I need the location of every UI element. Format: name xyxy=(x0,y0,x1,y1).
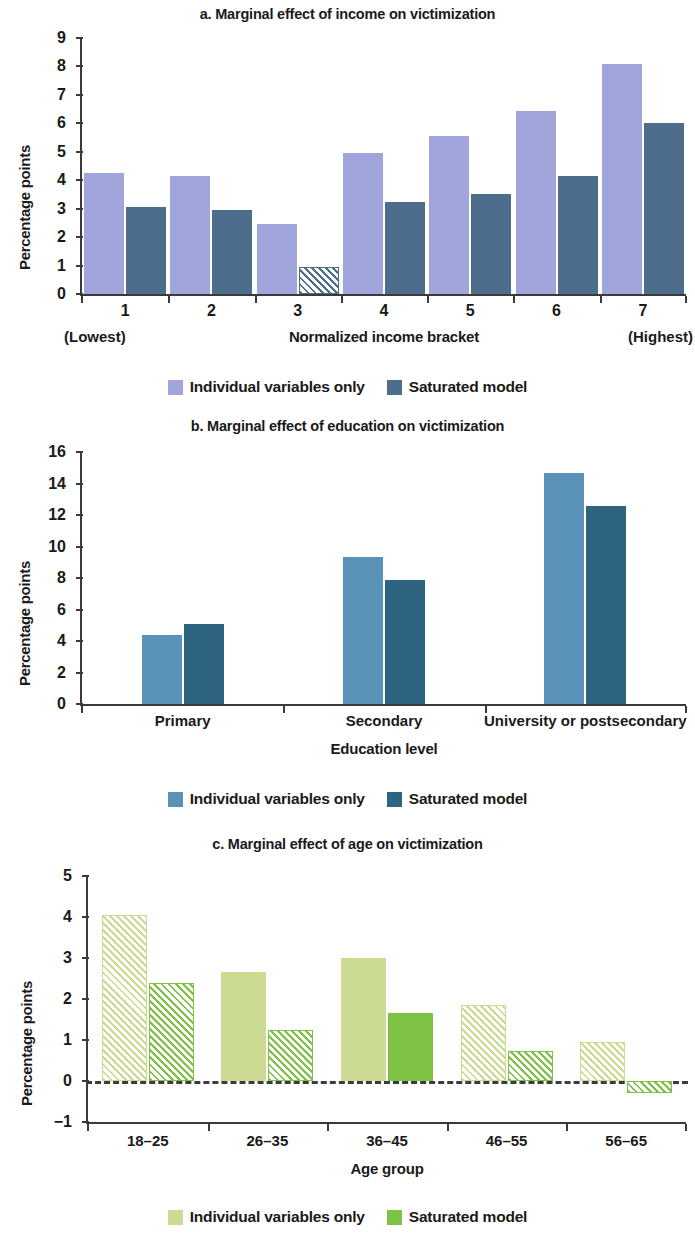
x-axis-tick-mark xyxy=(327,1124,329,1131)
panel-a-title: a. Marginal effect of income on victimiz… xyxy=(0,0,695,26)
x-axis-tick-mark xyxy=(168,296,170,303)
y-axis-tick-label: 4 xyxy=(0,633,74,649)
bar-individual-variables-only xyxy=(170,176,210,294)
x-axis-category-label: 18–25 xyxy=(127,1132,169,1149)
x-axis-category-label: 46–55 xyxy=(486,1132,528,1149)
x-axis-line xyxy=(80,704,686,706)
y-axis-tick-label: 16 xyxy=(0,444,74,460)
x-axis-category-label: Primary xyxy=(155,712,211,729)
x-axis-tick-mark xyxy=(685,706,687,713)
legend-label-individual-variables-only: Individual variables only xyxy=(190,1208,365,1226)
bar-saturated-model xyxy=(388,1013,433,1081)
x-axis-tick-mark xyxy=(81,706,83,713)
y-axis-tick-label: 1 xyxy=(0,1032,80,1048)
legend-swatch-individual-variables-only xyxy=(168,380,183,395)
bar-saturated-model xyxy=(268,1030,313,1081)
panel-a-plot-area: Percentage points01234567891234567Normal… xyxy=(0,26,695,294)
x-axis-tick-mark xyxy=(427,296,429,303)
x-axis-tick-mark xyxy=(447,1124,449,1131)
x-axis-category-label: 6 xyxy=(552,302,561,320)
bar-individual-variables-only xyxy=(341,958,386,1081)
legend-entry-saturated-model: Saturated model xyxy=(387,790,527,808)
x-axis-tick-mark xyxy=(283,706,285,713)
y-axis-tick-label: 12 xyxy=(0,507,74,523)
y-axis-tick-label: 14 xyxy=(0,476,74,492)
bar-saturated-model xyxy=(644,123,684,294)
y-axis-tick-label: 9 xyxy=(0,30,74,46)
x-axis-tick-mark xyxy=(208,1124,210,1131)
x-axis-category-label: 2 xyxy=(207,302,216,320)
y-axis-tick-label: 0 xyxy=(0,696,74,712)
x-axis-category-label: 7 xyxy=(638,302,647,320)
x-axis-category-label: Secondary xyxy=(346,712,423,729)
bar-saturated-model xyxy=(385,202,425,294)
x-axis-highest-note: (Highest) xyxy=(628,328,693,345)
bar-saturated-model xyxy=(471,194,511,294)
panel-c-x-axis-title: Age group xyxy=(350,1160,423,1177)
legend-entry-saturated-model: Saturated model xyxy=(387,378,527,396)
x-axis-category-label: University or postsecondary xyxy=(484,712,687,729)
legend-label-saturated-model: Saturated model xyxy=(409,790,527,808)
bar-saturated-model xyxy=(627,1081,672,1093)
x-axis-line xyxy=(86,1122,686,1124)
x-axis-tick-mark xyxy=(87,1124,89,1131)
bar-individual-variables-only xyxy=(429,136,469,294)
legend-label-individual-variables-only: Individual variables only xyxy=(190,378,365,396)
bar-saturated-model xyxy=(385,580,425,704)
x-axis-tick-mark xyxy=(513,296,515,303)
panel-c-title: c. Marginal effect of age on victimizati… xyxy=(0,830,695,856)
legend-label-individual-variables-only: Individual variables only xyxy=(190,790,365,808)
x-axis-tick-mark xyxy=(685,1124,687,1131)
x-axis-line xyxy=(80,294,686,296)
y-axis-tick-label: 6 xyxy=(0,602,74,618)
panel-c-plot-area: Percentage points−101234518–2526–3536–45… xyxy=(0,856,695,1124)
y-axis-tick-label: 3 xyxy=(0,950,80,966)
y-axis-tick-label: 5 xyxy=(0,868,80,884)
x-axis-tick-mark xyxy=(81,296,83,303)
y-axis-tick-label: 2 xyxy=(0,229,74,245)
y-axis-tick-label: 0 xyxy=(0,286,74,302)
x-axis-category-label: 5 xyxy=(466,302,475,320)
y-axis-tick-label: 2 xyxy=(0,665,74,681)
bar-individual-variables-only xyxy=(516,111,556,294)
panel-b-title: b. Marginal effect of education on victi… xyxy=(0,412,695,438)
x-axis-lowest-note: (Lowest) xyxy=(64,328,126,345)
bar-individual-variables-only xyxy=(343,557,383,704)
y-axis-tick-label: 10 xyxy=(0,539,74,555)
bar-saturated-model xyxy=(299,267,339,294)
panel-a-legend: Individual variables only Saturated mode… xyxy=(0,378,695,396)
y-axis-tick-label: 8 xyxy=(0,570,74,586)
y-axis-tick-label: 0 xyxy=(0,1073,80,1089)
legend-entry-saturated-model: Saturated model xyxy=(387,1208,527,1226)
legend-entry-individual-variables-only: Individual variables only xyxy=(168,1208,365,1226)
y-axis-tick-label: −1 xyxy=(0,1114,80,1130)
x-axis-category-label: 36–45 xyxy=(366,1132,408,1149)
x-axis-category-label: 56–65 xyxy=(605,1132,647,1149)
panel-b-legend: Individual variables only Saturated mode… xyxy=(0,790,695,808)
y-axis-spine xyxy=(80,38,82,294)
bar-individual-variables-only xyxy=(461,1005,506,1081)
x-axis-tick-mark xyxy=(341,296,343,303)
bar-individual-variables-only xyxy=(257,224,297,294)
bar-individual-variables-only xyxy=(602,64,642,294)
legend-entry-individual-variables-only: Individual variables only xyxy=(168,378,365,396)
bar-saturated-model xyxy=(212,210,252,294)
bar-individual-variables-only xyxy=(142,635,182,704)
zero-reference-line xyxy=(86,1081,688,1084)
bar-individual-variables-only xyxy=(343,153,383,294)
x-axis-tick-mark xyxy=(566,1124,568,1131)
y-axis-tick-label: 3 xyxy=(0,201,74,217)
bar-saturated-model xyxy=(508,1051,553,1081)
legend-label-saturated-model: Saturated model xyxy=(409,1208,527,1226)
x-axis-tick-mark xyxy=(685,296,687,303)
panel-income: a. Marginal effect of income on victimiz… xyxy=(0,0,695,412)
bar-saturated-model xyxy=(558,176,598,294)
panel-age: c. Marginal effect of age on victimizati… xyxy=(0,830,695,1246)
legend-label-saturated-model: Saturated model xyxy=(409,378,527,396)
bar-saturated-model xyxy=(184,624,224,704)
panel-a-x-axis-title: Normalized income bracket xyxy=(289,328,479,345)
panel-b-x-axis-title: Education level xyxy=(330,740,437,757)
y-axis-tick-label: 8 xyxy=(0,58,74,74)
x-axis-category-label: 26–35 xyxy=(247,1132,289,1149)
bar-individual-variables-only xyxy=(544,473,584,704)
